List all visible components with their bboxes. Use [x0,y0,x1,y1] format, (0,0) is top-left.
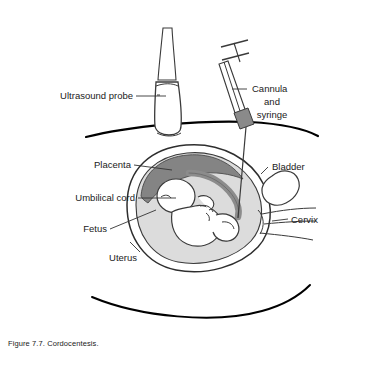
cervix-line-lower [260,233,313,240]
abdominal-wall-upper [86,122,318,137]
label-bladder: Bladder [272,161,305,172]
label-umbilical-cord: Umbilical cord [75,192,135,203]
label-cannula-line1: Cannula [252,83,288,94]
leader-bladder [261,167,268,174]
label-ultrasound-probe: Ultrasound probe [60,90,133,101]
cordocentesis-illustration: Ultrasound probe Cannula and syringe Pla… [0,0,366,372]
label-placenta: Placenta [94,159,132,170]
syringe-plunger-rod [234,43,240,62]
label-fetus: Fetus [83,223,107,234]
label-uterus: Uterus [109,252,137,263]
label-cannula-line3: syringe [257,109,288,120]
ultrasound-probe-head [155,82,182,135]
label-cervix: Cervix [291,214,318,225]
figure-container: Ultrasound probe Cannula and syringe Pla… [0,0,366,372]
figure-caption: Figure 7.7. Cordocentesis. [8,339,99,348]
bladder [262,171,299,205]
body-contour-lower [92,285,310,318]
syringe-flange [222,53,249,60]
ultrasound-probe-handle [158,28,176,80]
label-cannula-line2: and [264,96,280,107]
leader-cervix [272,219,288,221]
